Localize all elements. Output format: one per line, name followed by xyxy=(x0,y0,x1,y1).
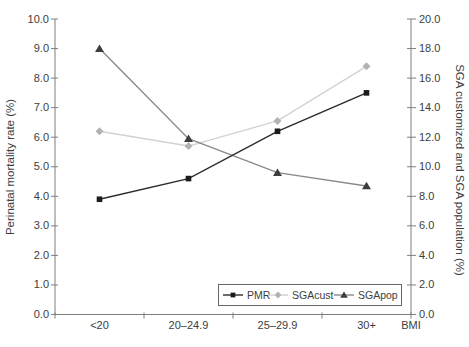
series-line-SGAcust xyxy=(100,66,367,146)
right-axis-tick-label: 2.0 xyxy=(419,278,434,290)
series-line-PMR xyxy=(100,93,367,199)
right-axis-tick-label: 12.0 xyxy=(419,131,440,143)
legend-label-SGAcust: SGAcust xyxy=(292,289,334,301)
series-line-SGApop xyxy=(100,49,367,186)
left-axis-tick-label: 3.0 xyxy=(34,219,49,231)
legend-label-PMR: PMR xyxy=(247,289,271,301)
right-axis-tick-label: 0.0 xyxy=(419,308,434,320)
right-axis-tick-label: 18.0 xyxy=(419,42,440,54)
right-axis-tick-label: 20.0 xyxy=(419,13,440,25)
left-axis-title: Perinatal mortality rate (%) xyxy=(4,99,16,235)
marker-PMR-3 xyxy=(364,90,370,96)
right-axis-tick-label: 4.0 xyxy=(419,249,434,261)
right-axis-tick-label: 10.0 xyxy=(419,160,440,172)
marker-PMR-2 xyxy=(275,128,281,134)
line-chart: 0.01.02.03.04.05.06.07.08.09.010.00.02.0… xyxy=(0,0,469,347)
left-axis-tick-label: 9.0 xyxy=(34,42,49,54)
marker-SGAcust-2 xyxy=(274,117,282,125)
marker-SGAcust-1 xyxy=(185,142,193,150)
right-axis-tick-label: 14.0 xyxy=(419,101,440,113)
marker-SGApop-2 xyxy=(273,169,282,177)
left-axis-tick-label: 7.0 xyxy=(34,101,49,113)
marker-PMR-0 xyxy=(97,196,103,202)
left-axis-tick-label: 8.0 xyxy=(34,72,49,84)
right-axis-tick-label: 6.0 xyxy=(419,219,434,231)
left-axis-tick-label: 1.0 xyxy=(34,278,49,290)
right-axis-tick-label: 8.0 xyxy=(419,190,434,202)
right-axis-title: SGA customized and SGA population (%) xyxy=(454,64,466,276)
marker-PMR-1 xyxy=(186,176,192,182)
right-axis-tick-label: 16.0 xyxy=(419,72,440,84)
left-axis-tick-label: 2.0 xyxy=(34,249,49,261)
x-category-label: <20 xyxy=(90,319,109,331)
x-category-label: 20–24.9 xyxy=(169,319,209,331)
marker-SGApop-0 xyxy=(95,44,104,52)
legend-marker-PMR xyxy=(231,293,236,298)
left-axis-tick-label: 10.0 xyxy=(28,13,49,25)
marker-SGAcust-3 xyxy=(363,62,371,70)
left-axis-tick-label: 0.0 xyxy=(34,308,49,320)
legend-label-SGApop: SGApop xyxy=(358,289,398,301)
x-category-label: 25–29.9 xyxy=(258,319,298,331)
marker-SGAcust-0 xyxy=(96,127,104,135)
left-axis-tick-label: 5.0 xyxy=(34,160,49,172)
left-axis-tick-label: 4.0 xyxy=(34,190,49,202)
left-axis-tick-label: 6.0 xyxy=(34,131,49,143)
x-axis-title: BMI xyxy=(401,319,421,331)
chart-figure: 0.01.02.03.04.05.06.07.08.09.010.00.02.0… xyxy=(0,0,469,347)
x-category-label: 30+ xyxy=(357,319,376,331)
